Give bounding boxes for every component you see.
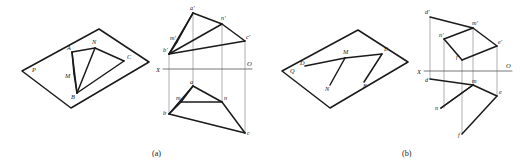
panel-a-orthographic-projection: XOa'n'c'm'b'ancmb bbox=[155, 4, 252, 136]
frontal-projection-edge bbox=[462, 46, 497, 60]
frontal-label-e1: e' bbox=[498, 38, 503, 45]
frontal-label-a1: a' bbox=[190, 4, 195, 11]
horizontal-projection-edge bbox=[181, 86, 193, 102]
horizontal-label-n2: n bbox=[224, 94, 227, 101]
figure-edge bbox=[345, 54, 382, 58]
horizontal-label-m2: m bbox=[472, 77, 477, 84]
panel-a-pictorial-view: PANCMB bbox=[22, 29, 149, 108]
point-label-E: E bbox=[383, 45, 388, 52]
frontal-label-m1: m' bbox=[472, 19, 479, 26]
point-label-M: M bbox=[64, 72, 71, 79]
frontal-projection-edge bbox=[430, 17, 473, 28]
horizontal-projection-edge bbox=[193, 86, 222, 102]
frontal-label-n1: n' bbox=[221, 14, 226, 21]
point-label-A: A bbox=[66, 44, 71, 51]
point-label-N: N bbox=[91, 38, 97, 45]
panel-b-orthographic-projection: XOd'm'n'e'f'dmenf bbox=[416, 8, 512, 138]
point-label-B: B bbox=[71, 93, 75, 100]
caption-b: (b) bbox=[402, 149, 412, 158]
plane-label: P bbox=[31, 66, 36, 73]
projection-figure-svg: PANCMB XOa'n'c'm'b'ancmb QDMENF XOd'm'n'… bbox=[0, 0, 520, 165]
frontal-projection-edge bbox=[444, 28, 473, 39]
horizontal-projection-edge bbox=[441, 85, 473, 108]
figure-edge bbox=[95, 48, 124, 61]
horizontal-projection-edge bbox=[430, 79, 473, 85]
frontal-label-n1: n' bbox=[439, 31, 444, 38]
plane-parallelogram bbox=[22, 29, 149, 108]
frontal-label-b1: b' bbox=[163, 46, 168, 53]
figure-captions: (a)(b) bbox=[152, 149, 412, 158]
horizontal-label-f2: f bbox=[458, 131, 461, 138]
caption-a: (a) bbox=[152, 149, 161, 158]
point-label-D: D bbox=[299, 59, 305, 66]
horizontal-projection-edge bbox=[169, 102, 181, 114]
figure-edge bbox=[305, 58, 345, 66]
frontal-label-m1: m' bbox=[170, 34, 177, 41]
horizontal-projection-edge bbox=[473, 85, 497, 96]
frontal-label-d1: d' bbox=[425, 8, 430, 15]
horizontal-label-b2: b bbox=[163, 109, 166, 116]
point-label-N: N bbox=[324, 85, 330, 92]
axis-label-x: X bbox=[416, 68, 422, 75]
frontal-projection-edge bbox=[177, 13, 193, 42]
figure-edge bbox=[72, 52, 74, 74]
horizontal-label-a2: a bbox=[190, 78, 193, 85]
technical-drawing-figure: PANCMB XOa'n'c'm'b'ancmb QDMENF XOd'm'n'… bbox=[0, 0, 520, 165]
horizontal-label-e2: e bbox=[499, 88, 502, 95]
axis-label-x: X bbox=[155, 66, 161, 73]
horizontal-label-m2: m bbox=[176, 94, 181, 101]
plane-parallelogram bbox=[282, 30, 408, 108]
point-label-C: C bbox=[127, 53, 132, 60]
figure-edge bbox=[364, 54, 382, 82]
horizontal-label-c2: c bbox=[247, 129, 250, 136]
frontal-projection-edge bbox=[222, 24, 245, 41]
frontal-label-c1: c' bbox=[246, 33, 251, 40]
point-label-F: F bbox=[362, 82, 367, 89]
panel-b-pictorial-view: QDMENF bbox=[282, 30, 408, 108]
frontal-projection-edge bbox=[193, 13, 222, 24]
horizontal-label-d2: d bbox=[425, 76, 429, 83]
axis-label-o: O bbox=[247, 60, 252, 67]
horizontal-label-n2: n bbox=[435, 104, 438, 111]
point-label-M: M bbox=[342, 48, 349, 55]
plane-label: Q bbox=[290, 67, 295, 74]
figure-edge bbox=[72, 48, 95, 52]
horizontal-projection-edge bbox=[462, 96, 497, 134]
frontal-projection-edge bbox=[473, 28, 497, 46]
axis-label-o: O bbox=[506, 62, 511, 69]
frontal-projection-edge bbox=[444, 39, 462, 60]
figure-edge bbox=[330, 58, 345, 85]
